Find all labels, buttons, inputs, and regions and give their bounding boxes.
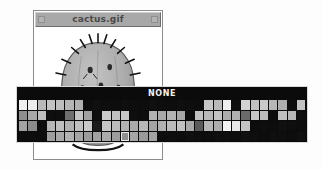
palette-swatch[interactable] [288, 100, 296, 110]
palette-swatch[interactable] [102, 132, 110, 142]
palette-swatch[interactable] [223, 121, 231, 131]
palette-swatch[interactable] [19, 111, 27, 121]
palette-swatch[interactable] [186, 121, 194, 131]
palette-swatch[interactable] [241, 121, 249, 131]
palette-swatch[interactable] [269, 121, 277, 131]
palette-swatch[interactable] [214, 111, 222, 121]
palette-swatch[interactable] [278, 121, 286, 131]
palette-swatch[interactable] [28, 121, 36, 131]
palette-swatch[interactable] [47, 100, 55, 110]
palette-swatch[interactable] [269, 100, 277, 110]
palette-swatch[interactable] [19, 132, 27, 142]
palette-swatch[interactable] [297, 100, 305, 110]
palette-swatch[interactable] [223, 132, 231, 142]
palette-swatch[interactable] [112, 121, 120, 131]
palette-swatch[interactable] [84, 100, 92, 110]
palette-swatch[interactable] [223, 100, 231, 110]
palette-swatch[interactable] [19, 100, 27, 110]
palette-swatch[interactable] [260, 132, 268, 142]
palette-swatch[interactable] [93, 132, 101, 142]
palette-swatch[interactable] [38, 121, 46, 131]
palette-swatch[interactable] [158, 121, 166, 131]
palette-swatch[interactable] [177, 132, 185, 142]
palette-swatch[interactable] [56, 100, 64, 110]
palette-swatch[interactable] [278, 100, 286, 110]
palette-swatch[interactable] [75, 111, 83, 121]
palette-swatch[interactable] [204, 121, 212, 131]
palette-swatch[interactable] [260, 121, 268, 131]
palette-swatch[interactable] [38, 132, 46, 142]
palette-swatch[interactable] [232, 111, 240, 121]
palette-swatch-grid[interactable] [19, 100, 305, 141]
palette-swatch[interactable] [223, 111, 231, 121]
palette-swatch[interactable] [214, 121, 222, 131]
color-palette-strip[interactable]: NONE [16, 86, 308, 143]
palette-swatch[interactable] [47, 121, 55, 131]
palette-swatch[interactable] [112, 132, 120, 142]
palette-swatch[interactable] [158, 132, 166, 142]
palette-swatch[interactable] [177, 121, 185, 131]
palette-swatch[interactable] [65, 132, 73, 142]
palette-swatch[interactable] [28, 100, 36, 110]
palette-swatch-selected[interactable] [121, 132, 129, 142]
palette-swatch[interactable] [112, 100, 120, 110]
palette-swatch[interactable] [28, 132, 36, 142]
palette-swatch[interactable] [167, 121, 175, 131]
palette-swatch[interactable] [251, 100, 259, 110]
palette-swatch[interactable] [232, 132, 240, 142]
palette-swatch[interactable] [158, 100, 166, 110]
palette-swatch[interactable] [297, 111, 305, 121]
palette-swatch[interactable] [38, 111, 46, 121]
palette-swatch[interactable] [195, 132, 203, 142]
window-control-box-icon-left[interactable] [38, 16, 45, 23]
palette-swatch[interactable] [28, 111, 36, 121]
palette-swatch[interactable] [204, 100, 212, 110]
palette-swatch[interactable] [251, 121, 259, 131]
palette-swatch[interactable] [139, 132, 147, 142]
palette-swatch[interactable] [75, 132, 83, 142]
palette-swatch[interactable] [84, 132, 92, 142]
palette-swatch[interactable] [195, 111, 203, 121]
palette-swatch[interactable] [269, 111, 277, 121]
palette-swatch[interactable] [214, 132, 222, 142]
window-control-box-icon-right[interactable] [151, 16, 158, 23]
palette-swatch[interactable] [130, 100, 138, 110]
palette-swatch[interactable] [139, 121, 147, 131]
palette-swatch[interactable] [93, 100, 101, 110]
palette-swatch[interactable] [278, 132, 286, 142]
palette-swatch[interactable] [102, 111, 110, 121]
palette-swatch[interactable] [232, 121, 240, 131]
palette-swatch[interactable] [84, 121, 92, 131]
palette-swatch[interactable] [38, 100, 46, 110]
palette-swatch[interactable] [241, 132, 249, 142]
palette-swatch[interactable] [84, 111, 92, 121]
palette-swatch[interactable] [167, 132, 175, 142]
palette-swatch[interactable] [195, 100, 203, 110]
palette-swatch[interactable] [47, 111, 55, 121]
palette-swatch[interactable] [56, 111, 64, 121]
palette-swatch[interactable] [195, 121, 203, 131]
palette-swatch[interactable] [158, 111, 166, 121]
palette-swatch[interactable] [47, 132, 55, 142]
palette-swatch[interactable] [297, 132, 305, 142]
palette-swatch[interactable] [130, 132, 138, 142]
palette-swatch[interactable] [186, 132, 194, 142]
palette-swatch[interactable] [75, 121, 83, 131]
window-titlebar[interactable]: cactus.gif [35, 12, 161, 27]
palette-swatch[interactable] [65, 100, 73, 110]
palette-swatch[interactable] [297, 121, 305, 131]
palette-swatch[interactable] [214, 100, 222, 110]
palette-swatch[interactable] [75, 100, 83, 110]
palette-swatch[interactable] [251, 132, 259, 142]
palette-swatch[interactable] [204, 132, 212, 142]
palette-swatch[interactable] [121, 100, 129, 110]
palette-swatch[interactable] [102, 121, 110, 131]
palette-swatch[interactable] [149, 111, 157, 121]
palette-swatch[interactable] [241, 100, 249, 110]
palette-swatch[interactable] [288, 121, 296, 131]
palette-swatch[interactable] [121, 111, 129, 121]
palette-swatch[interactable] [56, 121, 64, 131]
palette-swatch[interactable] [19, 121, 27, 131]
palette-swatch[interactable] [278, 111, 286, 121]
palette-swatch[interactable] [56, 132, 64, 142]
